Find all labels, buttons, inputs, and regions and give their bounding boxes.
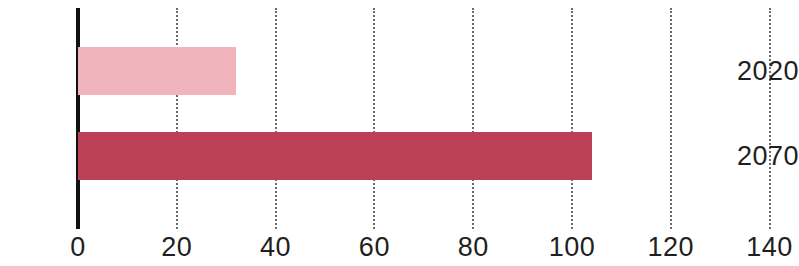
x-tick-label-20: 20	[142, 232, 212, 263]
x-tick-label-0: 0	[43, 232, 113, 263]
x-tick-label-80: 80	[438, 232, 508, 263]
plot-area	[0, 0, 799, 266]
bar-chart: 2020 2070 020406080100120140	[0, 0, 799, 266]
y-axis-line	[76, 8, 80, 229]
x-tick-label-120: 120	[636, 232, 706, 263]
gridline-20	[176, 8, 178, 229]
bar-2070	[78, 132, 592, 180]
gridline-80	[472, 8, 474, 229]
bar-2020	[78, 47, 236, 95]
x-tick-label-60: 60	[339, 232, 409, 263]
y-tick-label-2070: 2070	[731, 141, 799, 172]
x-tick-label-40: 40	[241, 232, 311, 263]
gridline-140	[769, 8, 771, 229]
y-tick-label-2020: 2020	[731, 56, 799, 87]
gridline-100	[571, 8, 573, 229]
x-tick-label-140: 140	[735, 232, 799, 263]
gridline-40	[275, 8, 277, 229]
gridline-120	[670, 8, 672, 229]
gridline-60	[373, 8, 375, 229]
x-tick-label-100: 100	[537, 232, 607, 263]
